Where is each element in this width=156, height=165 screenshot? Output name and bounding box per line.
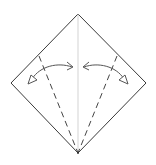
origami-diagram: Square paper turned as a diamond with ce… [0, 0, 156, 165]
diagram-svg [0, 0, 156, 165]
bottom-point-marker [77, 152, 79, 154]
